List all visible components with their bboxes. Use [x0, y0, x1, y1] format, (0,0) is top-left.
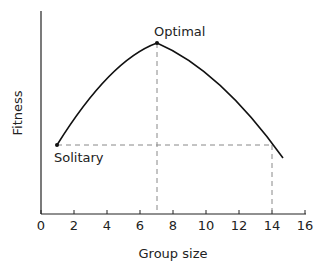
x-axis-label: Group size: [139, 246, 208, 261]
x-tick-label: 0: [37, 218, 45, 233]
fitness-curve: [57, 43, 283, 158]
x-tick-label: 14: [264, 218, 281, 233]
x-tick-label: 12: [231, 218, 248, 233]
reference-lines: [57, 43, 272, 214]
x-tick-label: 6: [136, 218, 144, 233]
x-tick-label: 4: [103, 218, 111, 233]
solitary-point: [55, 143, 59, 147]
y-axis-label: Fitness: [10, 90, 25, 135]
x-tick-label: 8: [169, 218, 177, 233]
fitness-chart: 0 2 4 6 8 10 12 14 16 Group size Fitness…: [0, 0, 327, 270]
x-tick-label: 10: [198, 218, 215, 233]
optimal-label: Optimal: [154, 24, 205, 39]
solitary-label: Solitary: [54, 150, 104, 165]
optimal-point: [155, 41, 159, 45]
x-tick-label: 16: [297, 218, 314, 233]
x-tick-label: 2: [70, 218, 78, 233]
